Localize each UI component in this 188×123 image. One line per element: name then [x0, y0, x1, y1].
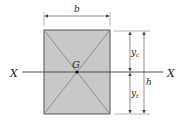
yc-label: yc: [130, 47, 140, 58]
width-label: b: [74, 4, 80, 14]
section-diagram: X X G b yc yt h: [0, 0, 188, 123]
height-label: h: [146, 77, 152, 87]
axis-label-left: X: [9, 67, 19, 80]
axis-label-right: X: [166, 67, 176, 80]
yt-label: yt: [130, 88, 139, 99]
centroid-dot: [75, 70, 78, 73]
centroid-label: G: [72, 59, 80, 70]
